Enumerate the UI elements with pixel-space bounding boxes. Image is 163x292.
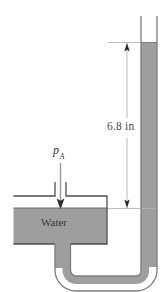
manometer-figure: 6.8 in Water pA: [0, 0, 163, 292]
applied-pressure-label: pA: [53, 144, 64, 159]
applied-pressure-arrow-group: [57, 163, 65, 210]
fluid-label: Water: [41, 217, 67, 228]
structure-outline-group: [14, 16, 158, 291]
fluid-fill-group: [14, 42, 158, 284]
manometer-diagram-svg: [0, 0, 163, 292]
dimension-label: 6.8 in: [107, 121, 134, 133]
pressure-symbol: p: [53, 143, 59, 157]
u-bend-water-fill: [63, 244, 150, 284]
tube-right-water-column: [141, 42, 157, 267]
pressure-subscript: A: [60, 152, 65, 161]
